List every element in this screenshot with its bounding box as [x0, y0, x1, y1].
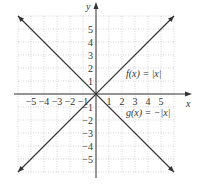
y-tick-label: 5: [88, 24, 93, 35]
x-tick-label: 2: [120, 96, 125, 107]
y-tick-label: −1: [82, 102, 93, 113]
absolute-value-chart: −5−4−3−2−11234554321−1−2−3−4−5 x y f(x) …: [0, 0, 198, 184]
x-axis-arrow-icon: [185, 92, 192, 97]
y-tick-label: −2: [82, 115, 93, 126]
x-tick-label: 1: [107, 96, 112, 107]
y-tick-label: −5: [82, 154, 93, 165]
x-tick-label: 5: [159, 96, 164, 107]
x-axis-label: x: [185, 98, 191, 109]
y-axis-arrow-icon: [94, 2, 99, 9]
x-tick-label: −4: [39, 96, 50, 107]
y-tick-label: 2: [88, 63, 93, 74]
y-tick-label: 4: [88, 37, 93, 48]
g-function-label: g(x) = −|x|: [126, 107, 171, 119]
y-tick-label: −4: [82, 141, 93, 152]
x-tick-label: 3: [133, 96, 138, 107]
x-tick-label: −5: [26, 96, 37, 107]
x-tick-label: 4: [146, 96, 151, 107]
y-tick-label: 1: [88, 76, 93, 87]
x-tick-label: −2: [65, 96, 76, 107]
y-tick-label: −3: [82, 128, 93, 139]
y-axis-label: y: [85, 1, 91, 12]
x-tick-label: −3: [52, 96, 63, 107]
y-tick-label: 3: [88, 50, 93, 61]
axes: [14, 2, 192, 178]
f-function-label: f(x) = |x|: [126, 68, 162, 80]
